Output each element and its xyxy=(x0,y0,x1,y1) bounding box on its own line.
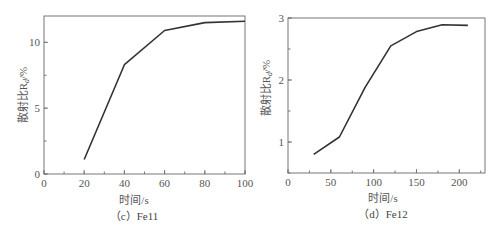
chart-fe11: 0204060801000510 时间/s 散射比Rd/% （c）Fe11 xyxy=(16,16,254,222)
panel-caption: （c）Fe11 xyxy=(110,210,158,222)
y-tick-label: 5 xyxy=(35,102,41,114)
x-tick-label: 100 xyxy=(237,177,254,189)
x-axis-title: 时间/s xyxy=(119,194,148,206)
data-line xyxy=(314,25,468,155)
plot-frame xyxy=(288,18,485,173)
figure: 0204060801000510 时间/s 散射比Rd/% （c）Fe11 05… xyxy=(0,0,503,235)
data-line xyxy=(84,21,245,159)
x-axis-title: 时间/s xyxy=(368,192,397,204)
x-tick-label: 0 xyxy=(41,177,47,189)
x-tick-label: 200 xyxy=(451,176,468,188)
y-axis-title: 散射比Rd/% xyxy=(259,60,274,117)
x-tick-label: 20 xyxy=(79,177,91,189)
panel-caption: （d）Fe12 xyxy=(358,208,408,220)
x-tick-label: 60 xyxy=(159,177,171,189)
y-tick-label: 3 xyxy=(279,12,285,24)
axis-ticks: 0204060801000510 xyxy=(29,36,254,189)
y-tick-label: 10 xyxy=(29,36,41,48)
chart-fe12: 050100150200123 时间/s 散射比Rd/% （d）Fe12 xyxy=(259,12,485,220)
y-tick-label: 1 xyxy=(279,136,285,148)
x-tick-label: 80 xyxy=(199,177,211,189)
x-tick-label: 40 xyxy=(119,177,131,189)
x-tick-label: 100 xyxy=(365,176,382,188)
plot-frame xyxy=(44,16,245,174)
x-tick-label: 50 xyxy=(325,176,337,188)
x-tick-label: 0 xyxy=(285,176,291,188)
y-axis-title: 散射比Rd/% xyxy=(16,67,31,124)
axis-ticks: 050100150200123 xyxy=(279,12,481,188)
y-tick-label: 0 xyxy=(35,168,41,180)
y-tick-label: 2 xyxy=(279,74,285,86)
x-tick-label: 150 xyxy=(408,176,425,188)
